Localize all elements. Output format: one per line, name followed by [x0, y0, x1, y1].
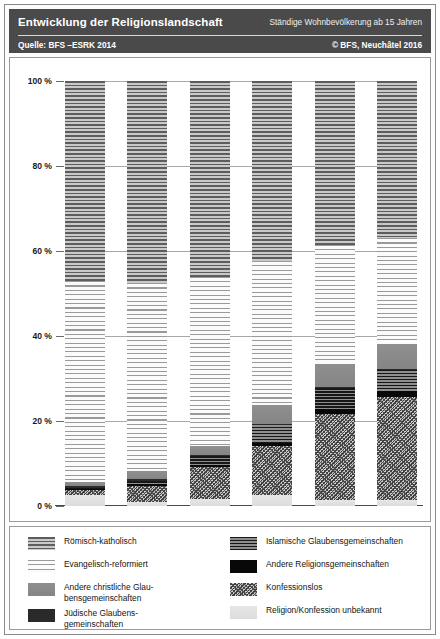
chart-panel: 0 %20 %40 %60 %80 %100 %1970198019902000…: [9, 57, 431, 522]
y-tick-mark-100: [56, 81, 64, 82]
bar-2010[interactable]: 2010: [315, 81, 355, 506]
y-tick-mark-20: [56, 421, 64, 422]
chart-legend: Römisch-katholischEvangelisch-reformiert…: [9, 526, 431, 630]
legend-swatch-islamic-icon: [230, 537, 257, 550]
gridline-60: [65, 251, 417, 252]
y-tick-label-80: 80 %: [32, 161, 52, 171]
legend-label-none: Konfessionslos: [266, 582, 322, 593]
bar-segment-otherchrist[interactable]: [190, 446, 230, 455]
gridline-20: [65, 421, 417, 422]
legend-item-jewish[interactable]: Jüdische Glaubens- gemeinschaften: [28, 608, 216, 629]
legend-swatch-jewish-icon: [28, 609, 55, 622]
legend-swatch-catholic-icon: [28, 537, 55, 550]
bar-segment-none[interactable]: [377, 397, 417, 500]
bar-segment-otherrel[interactable]: [315, 409, 355, 414]
bar-segment-none[interactable]: [252, 446, 292, 494]
chart-page: Entwicklung der Religionslandschaft Stän…: [0, 0, 440, 639]
legend-column-left: Römisch-katholischEvangelisch-reformiert…: [10, 527, 220, 629]
legend-label-otherchrist: Andere christliche Glau- bensgemeinschaf…: [64, 582, 153, 603]
page-title: Entwicklung der Religionslandschaft: [18, 16, 223, 28]
bar-2000[interactable]: 2000: [252, 81, 292, 506]
bar-segment-catholic[interactable]: [190, 81, 230, 277]
bar-segment-jewish[interactable]: [377, 369, 417, 370]
legend-label-unknown: Religion/Konfession unbekannt: [266, 605, 381, 616]
bar-segment-jewish[interactable]: [252, 424, 292, 425]
y-tick-mark-80: [56, 166, 64, 167]
bar-1980[interactable]: 1980: [127, 81, 167, 506]
bar-segment-islamic[interactable]: [252, 424, 292, 442]
bar-1990[interactable]: 1990: [190, 81, 230, 506]
legend-item-none[interactable]: Konfessionslos: [230, 582, 426, 600]
bar-segment-unknown[interactable]: [127, 502, 167, 506]
legend-swatch-none-icon: [230, 583, 257, 596]
bar-segment-protestant[interactable]: [377, 238, 417, 344]
gridline-80: [65, 166, 417, 167]
legend-label-otherrel: Andere Religionsgemeinschaften: [266, 559, 389, 570]
bar-segment-islamic[interactable]: [315, 388, 355, 409]
bar-segment-unknown[interactable]: [190, 499, 230, 506]
y-tick-mark-40: [56, 336, 64, 337]
bar-segment-islamic[interactable]: [190, 456, 230, 465]
legend-label-islamic: Islamische Glaubensgemeinschaften: [266, 536, 403, 547]
bar-segment-protestant[interactable]: [65, 281, 105, 482]
header-top-row: Entwicklung der Religionslandschaft Stän…: [9, 9, 431, 35]
bar-segment-otherchrist[interactable]: [127, 471, 167, 479]
chart-header: Entwicklung der Religionslandschaft Stän…: [9, 9, 431, 53]
header-subtitle: Ständige Wohnbevölkerung ab 15 Jahren: [269, 17, 422, 27]
bar-segment-protestant[interactable]: [190, 277, 230, 445]
bar-segment-islamic[interactable]: [377, 370, 417, 392]
bar-segment-otherrel[interactable]: [377, 391, 417, 397]
legend-item-otherrel[interactable]: Andere Religionsgemeinschaften: [230, 559, 426, 577]
bar-segment-islamic[interactable]: [127, 481, 167, 485]
bar-segment-none[interactable]: [127, 486, 167, 503]
legend-label-catholic: Römisch-katholisch: [64, 536, 137, 547]
bar-segment-protestant[interactable]: [127, 283, 167, 471]
bar-segment-otherchrist[interactable]: [252, 405, 292, 424]
bar-segment-protestant[interactable]: [252, 261, 292, 405]
bar-segment-unknown[interactable]: [377, 500, 417, 506]
y-tick-mark-60: [56, 251, 64, 252]
bar-segment-unknown[interactable]: [65, 495, 105, 506]
legend-item-unknown[interactable]: Religion/Konfession unbekannt: [230, 605, 426, 623]
bar-segment-catholic[interactable]: [315, 81, 355, 245]
legend-column-right: Islamische GlaubensgemeinschaftenAndere …: [220, 527, 430, 629]
bar-segment-otherrel[interactable]: [190, 465, 230, 467]
bar-segment-none[interactable]: [315, 414, 355, 499]
y-tick-label-20: 20 %: [32, 416, 52, 426]
header-bottom-row: Quelle: BFS –ESRK 2014 © BFS, Neuchâtel …: [9, 36, 431, 53]
legend-item-catholic[interactable]: Römisch-katholisch: [28, 536, 216, 554]
bar-segment-otherchrist[interactable]: [377, 344, 417, 369]
copyright-label: © BFS, Neuchâtel 2016: [332, 40, 422, 50]
bar-segment-islamic[interactable]: [65, 488, 105, 489]
y-tick-label-40: 40 %: [32, 331, 52, 341]
legend-item-protestant[interactable]: Evangelisch-reformiert: [28, 559, 216, 577]
bar-segment-catholic[interactable]: [377, 81, 417, 238]
bar-segment-otherchrist[interactable]: [65, 482, 105, 486]
legend-swatch-protestant-icon: [28, 560, 55, 573]
bar-segment-none[interactable]: [65, 489, 105, 494]
bar-segment-unknown[interactable]: [252, 495, 292, 506]
bar-segment-jewish[interactable]: [65, 486, 105, 488]
bar-2015[interactable]: 2015: [377, 81, 417, 506]
bar-segment-otherchrist[interactable]: [315, 364, 355, 387]
bar-segment-jewish[interactable]: [190, 455, 230, 456]
bar-1970[interactable]: 1970: [65, 81, 105, 506]
bar-segment-jewish[interactable]: [127, 479, 167, 480]
legend-swatch-unknown-icon: [230, 606, 257, 619]
legend-label-protestant: Evangelisch-reformiert: [64, 559, 148, 570]
bar-segment-catholic[interactable]: [127, 81, 167, 283]
y-tick-label-100: 100 %: [28, 76, 52, 86]
y-tick-mark-0: [56, 506, 64, 507]
bar-segment-unknown[interactable]: [315, 500, 355, 506]
bar-segment-catholic[interactable]: [252, 81, 292, 261]
bar-segment-otherrel[interactable]: [252, 443, 292, 446]
source-label: Quelle: BFS –ESRK 2014: [18, 40, 116, 50]
bar-segment-none[interactable]: [190, 467, 230, 499]
gridline-0: [65, 506, 417, 507]
legend-item-islamic[interactable]: Islamische Glaubensgemeinschaften: [230, 536, 426, 554]
bar-segment-otherrel[interactable]: [127, 484, 167, 485]
bar-segment-jewish[interactable]: [315, 387, 355, 388]
bar-segment-catholic[interactable]: [65, 81, 105, 281]
legend-item-otherchrist[interactable]: Andere christliche Glau- bensgemeinschaf…: [28, 582, 216, 603]
bar-segment-protestant[interactable]: [315, 245, 355, 364]
